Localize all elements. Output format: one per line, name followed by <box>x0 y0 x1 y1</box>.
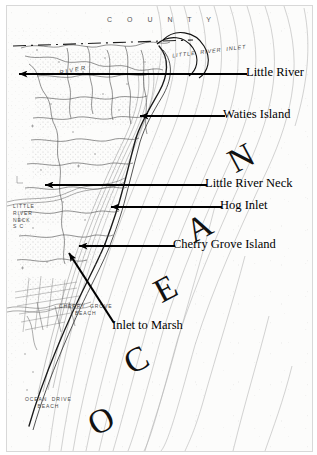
callout-label-cherry-grove-island: Cherry Grove Island <box>173 238 276 251</box>
callout-label-little-river: Little River <box>246 66 304 79</box>
callout-label-inlet-to-marsh: Inlet to Marsh <box>112 319 183 332</box>
map-figure: C O U N T Y LITTLE RIVER INLET RIVER LIT… <box>0 0 317 455</box>
callout-label-waties-island: Waties Island <box>223 108 290 121</box>
callout-label-hog-inlet: Hog Inlet <box>220 199 268 212</box>
arrow-inlet-to-marsh <box>69 253 114 323</box>
callout-label-little-river-neck: Little River Neck <box>205 177 292 190</box>
